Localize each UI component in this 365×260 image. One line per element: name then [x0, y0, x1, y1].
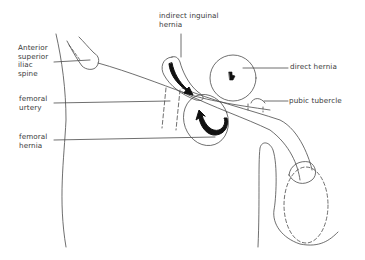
femoral-artery [162, 88, 166, 128]
pubic-tubercle [251, 99, 265, 104]
hernia-diagram [0, 0, 365, 260]
femoral-hernia-leader [54, 137, 215, 140]
scrotum [284, 167, 328, 243]
testis [289, 162, 316, 184]
label-indirect-inguinal-hernia: indirect inguinal hernia [159, 12, 219, 29]
label-femoral-hernia: femoral hernia [19, 133, 47, 150]
femoral-vein [176, 90, 180, 130]
curved-arrow-icon [196, 110, 228, 135]
body-outline [56, 34, 66, 247]
label-direct-hernia: direct hernia [290, 63, 337, 72]
femoral-artery-leader [54, 101, 170, 103]
asis-leader [54, 60, 90, 62]
label-asis: Anterior superior iliac spine [18, 44, 48, 78]
asis-dashed [69, 45, 80, 60]
arrow-icon [229, 72, 235, 80]
curved-arrow-icon [169, 63, 193, 95]
label-pubic-tubercle: pubic tubercle [289, 97, 342, 106]
anterior-superior-iliac-spine [67, 37, 99, 69]
label-femoral-artery: femoral urtery [19, 95, 47, 112]
penis [258, 143, 338, 247]
